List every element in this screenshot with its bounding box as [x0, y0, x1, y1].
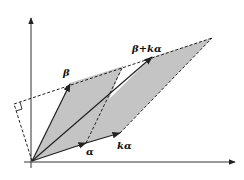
- perpendicular-dashed: [14, 104, 32, 161]
- label-beta-plus-k-alpha: β+kα: [131, 43, 162, 54]
- label-alpha: α: [86, 146, 94, 157]
- label-beta: β: [62, 67, 70, 78]
- label-k-alpha: kα: [117, 140, 132, 151]
- diagram-canvas: β β+kα α kα: [0, 0, 244, 180]
